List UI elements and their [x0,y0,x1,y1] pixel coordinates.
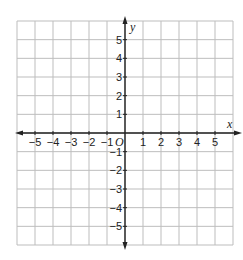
x-axis-left-arrow-icon [15,131,23,136]
y-axis-label: y [129,20,136,34]
y-tick-label: 2 [116,90,122,102]
y-axis-down-arrow-icon [123,242,128,250]
x-tick-label: 4 [194,136,200,148]
x-axis-right-arrow-icon [234,131,242,136]
y-tick-label: −2 [109,164,122,176]
x-tick-label: 2 [158,136,164,148]
x-tick-label: −2 [83,136,96,148]
y-tick-label: 1 [116,108,122,120]
coordinate-plane: −5−4−3−2−112345 54321−1−2−3−4−5 x y O [0,0,243,260]
y-tick-label: 4 [116,52,122,64]
x-tick-label: −5 [29,136,42,148]
x-tick-label: −4 [47,136,60,148]
origin-label: O [115,135,124,149]
x-axis-label: x [226,117,233,131]
y-tick-label: −5 [109,220,122,232]
x-tick-label: 1 [140,136,146,148]
y-tick-label: 3 [116,71,122,83]
x-tick-label: 5 [212,136,218,148]
y-axis-up-arrow-icon [123,16,128,24]
x-tick-label: 3 [176,136,182,148]
y-tick-label: 5 [116,34,122,46]
y-tick-label: −3 [109,183,122,195]
axes [15,16,242,250]
x-tick-label: −3 [65,136,78,148]
y-tick-label: −4 [109,202,122,214]
